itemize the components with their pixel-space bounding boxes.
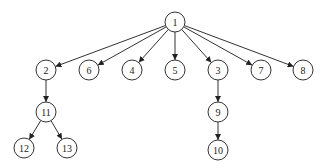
node-label: 9	[216, 107, 221, 118]
node-13: 13	[57, 138, 77, 158]
node-6: 6	[79, 60, 99, 80]
node-1: 1	[165, 12, 185, 32]
node-4: 4	[122, 60, 142, 80]
node-label: 2	[44, 65, 49, 76]
node-10: 10	[208, 140, 228, 160]
node-label: 13	[62, 143, 72, 154]
node-2: 2	[36, 60, 56, 80]
edge-1-to-8	[184, 26, 293, 67]
node-label: 7	[259, 65, 264, 76]
node-label: 3	[216, 65, 221, 76]
node-11: 11	[36, 102, 56, 122]
node-9: 9	[208, 102, 228, 122]
node-7: 7	[251, 60, 271, 80]
node-label: 4	[130, 65, 135, 76]
node-label: 6	[87, 65, 92, 76]
node-3: 3	[208, 60, 228, 80]
node-label: 12	[19, 143, 29, 154]
node-12: 12	[14, 138, 34, 158]
node-8: 8	[293, 60, 313, 80]
edge-11-to-12	[29, 121, 41, 140]
node-label: 5	[173, 65, 178, 76]
edge-1-to-7	[184, 27, 253, 65]
tree-diagram: 12645378119121310	[0, 0, 323, 168]
node-label: 1	[173, 17, 178, 28]
node-label: 11	[41, 107, 51, 118]
edge-1-to-2	[55, 25, 165, 66]
edge-11-to-13	[51, 121, 62, 140]
edge-1-to-6	[98, 27, 167, 65]
edges-layer	[29, 25, 293, 140]
node-5: 5	[165, 60, 185, 80]
node-label: 8	[301, 65, 306, 76]
node-label: 10	[213, 145, 223, 156]
